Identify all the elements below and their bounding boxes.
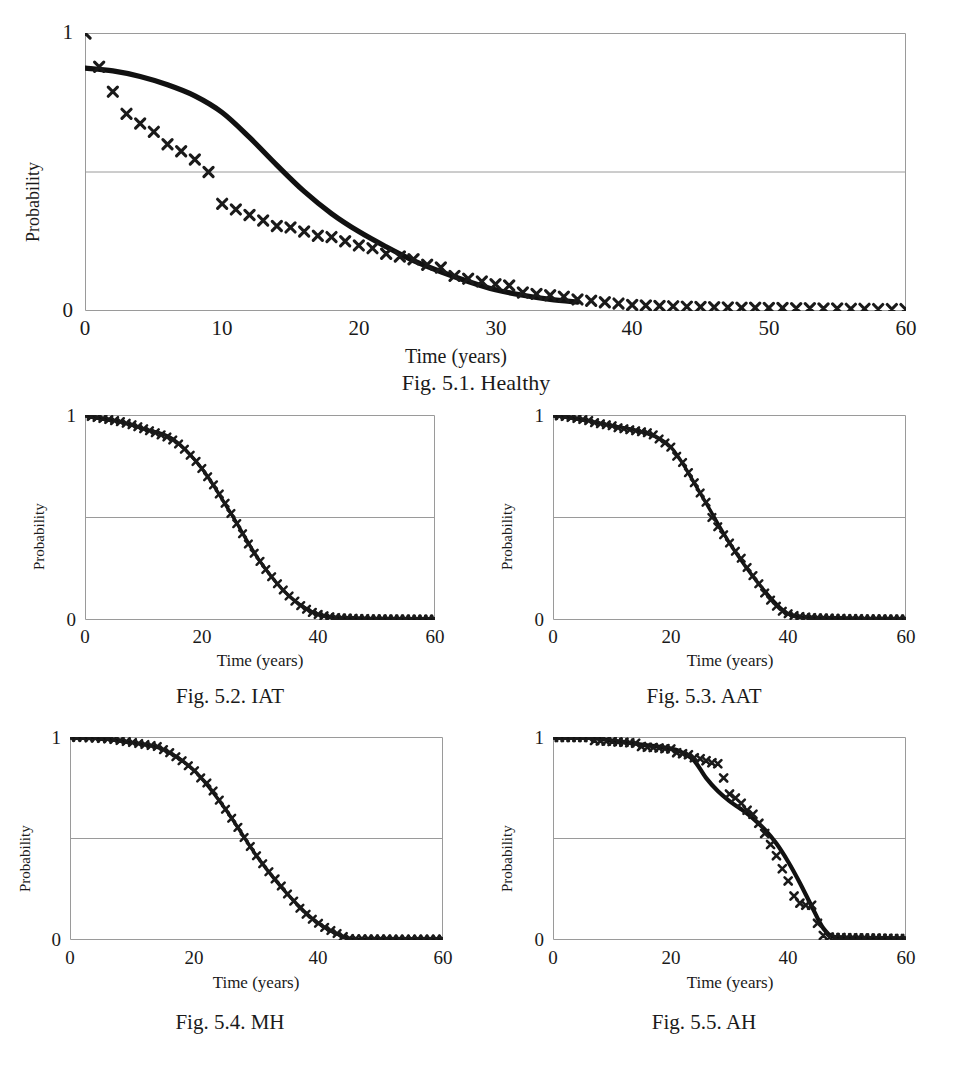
xtick-5-5-40: 40 xyxy=(769,948,807,967)
yaxis-title-5-1: Probability xyxy=(24,162,42,242)
xtick-5-2-20: 20 xyxy=(183,627,221,646)
xtick-5-1-30: 30 xyxy=(476,318,516,339)
plot-area-5-5 xyxy=(553,737,906,940)
xtick-5-5-20: 20 xyxy=(652,948,690,967)
xaxis-title-5-2: Time (years) xyxy=(160,652,360,669)
plot-area-5-1 xyxy=(85,33,906,311)
figure-5-3: 1 0 0 20 40 60 Time (years) Probability … xyxy=(476,398,953,718)
chart-canvas-5-1 xyxy=(85,33,906,311)
yaxis-title-5-4: Probability xyxy=(18,825,33,892)
ytick-5-4-1: 1 xyxy=(35,728,61,747)
caption-5-3: Fig. 5.3. AAT xyxy=(534,686,874,707)
xaxis-title-5-1: Time (years) xyxy=(346,346,566,366)
chart-canvas-5-4 xyxy=(70,737,443,940)
ytick-5-1-1: 1 xyxy=(45,22,73,43)
caption-5-5: Fig. 5.5. AH xyxy=(534,1012,874,1033)
xtick-5-1-60: 60 xyxy=(886,318,926,339)
ytick-5-5-1: 1 xyxy=(518,728,544,747)
yaxis-title-5-5: Probability xyxy=(500,825,515,892)
ytick-5-5-0: 0 xyxy=(518,930,544,949)
xtick-5-4-60: 60 xyxy=(424,948,462,967)
xtick-5-1-10: 10 xyxy=(202,318,242,339)
figure-5-5: 1 0 0 20 40 60 Time (years) Probability … xyxy=(476,718,953,1070)
xaxis-title-5-3: Time (years) xyxy=(630,652,830,669)
xtick-5-3-0: 0 xyxy=(534,627,572,646)
chart-canvas-5-5 xyxy=(553,737,906,940)
xtick-5-1-20: 20 xyxy=(339,318,379,339)
chart-canvas-5-2 xyxy=(85,415,435,620)
xtick-5-1-40: 40 xyxy=(612,318,652,339)
xtick-5-5-0: 0 xyxy=(534,948,572,967)
xtick-5-3-20: 20 xyxy=(652,627,690,646)
xtick-5-5-60: 60 xyxy=(887,948,925,967)
figure-5-4: 1 0 0 20 40 60 Time (years) Probability … xyxy=(0,718,476,1070)
xtick-5-4-20: 20 xyxy=(175,948,213,967)
caption-5-2: Fig. 5.2. IAT xyxy=(60,686,400,707)
plot-area-5-2 xyxy=(85,415,435,620)
caption-5-4: Fig. 5.4. MH xyxy=(60,1012,400,1033)
xtick-5-2-60: 60 xyxy=(416,627,454,646)
xtick-5-2-40: 40 xyxy=(299,627,337,646)
yaxis-title-5-2: Probability xyxy=(32,503,47,570)
xaxis-title-5-4: Time (years) xyxy=(156,974,356,991)
ytick-5-3-1: 1 xyxy=(518,406,544,425)
figure-5-2: 1 0 0 20 40 60 Time (years) Probability … xyxy=(0,398,476,718)
ytick-5-4-0: 0 xyxy=(35,930,61,949)
chart-canvas-5-3 xyxy=(553,415,906,620)
ytick-5-2-1: 1 xyxy=(50,406,76,425)
yaxis-title-5-3: Probability xyxy=(500,503,515,570)
caption-5-1: Fig. 5.1. Healthy xyxy=(276,372,676,394)
plot-area-5-3 xyxy=(553,415,906,620)
plot-area-5-4 xyxy=(70,737,443,940)
xaxis-title-5-5: Time (years) xyxy=(630,974,830,991)
xtick-5-4-40: 40 xyxy=(299,948,337,967)
xtick-5-3-40: 40 xyxy=(769,627,807,646)
xtick-5-1-50: 50 xyxy=(749,318,789,339)
xtick-5-2-0: 0 xyxy=(66,627,104,646)
xtick-5-3-60: 60 xyxy=(887,627,925,646)
xtick-5-1-0: 0 xyxy=(65,318,105,339)
xtick-5-4-0: 0 xyxy=(51,948,89,967)
figure-5-1: 1 0 0 10 20 30 40 50 60 Time (years) Pro… xyxy=(0,0,953,390)
